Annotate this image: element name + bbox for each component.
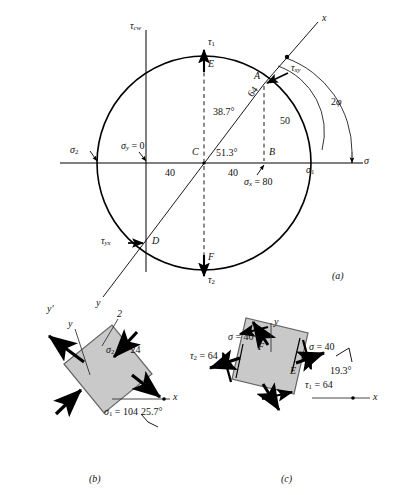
angle-51-3-label-a: 51.3° xyxy=(216,147,238,158)
x-axis-tick-c xyxy=(351,396,355,400)
y-label-c: y xyxy=(274,316,278,327)
tau1-label-a: τ1 xyxy=(208,36,215,47)
x-label-c: x xyxy=(373,391,377,402)
right-segment-label-a: 40 xyxy=(228,167,238,178)
x-axis-tick-b xyxy=(162,397,166,401)
sigma2-arrow-bottom-b xyxy=(56,390,81,414)
two-phi-label-a: 2φ xyxy=(331,96,342,107)
sigma-right-label-c: σ = 40 xyxy=(309,341,335,352)
x-axis-label-a: x xyxy=(322,12,326,23)
point-A-label-a: A xyxy=(254,70,260,81)
sigma-x-leader xyxy=(257,165,264,175)
tau-cw-axis-label: τcw xyxy=(130,20,141,31)
mohr-circle-figure xyxy=(0,0,394,495)
left-segment-label-a: 40 xyxy=(165,167,175,178)
sigma2-label-b: σ2 = −24 xyxy=(106,344,141,355)
angle-label-b: 25.7° xyxy=(141,406,163,417)
sigma-top-label-c: σ = 40 xyxy=(228,331,254,342)
sigma-axis-label: σ xyxy=(364,155,369,166)
angle-38-7-label-a: 38.7° xyxy=(213,106,235,117)
angle-tick-c xyxy=(336,348,352,362)
point-E-label-a: E xyxy=(208,58,214,69)
y-direction-ray xyxy=(103,243,144,297)
angle-label-c: 19.3° xyxy=(330,365,352,376)
caption-c: (c) xyxy=(281,473,292,484)
point-C-label-a: C xyxy=(192,146,199,157)
caption-b: (b) xyxy=(89,473,101,484)
y-prime-label-b: y′ xyxy=(47,303,54,314)
height-50-label-a: 50 xyxy=(280,115,290,126)
point-F-label-c: F xyxy=(258,341,264,352)
point-E-label-c: E xyxy=(290,365,296,376)
stress-block-b xyxy=(64,325,152,413)
tau1-label-c: τ1 = 64 xyxy=(305,379,333,390)
two-phi-inner-arc xyxy=(278,66,324,150)
tau2-label-a: τ2 xyxy=(208,274,215,285)
sigma-x-80-label-a: σx = 80 xyxy=(244,176,273,187)
tau-yx-label-a: τyx xyxy=(101,235,111,246)
sigma-y-leader xyxy=(139,152,146,161)
stress-block-c xyxy=(232,318,308,394)
x-ray-tick xyxy=(285,55,289,59)
point-F-label-a: F xyxy=(208,251,214,262)
tau2-label-c: τ2 = 64 xyxy=(190,350,218,361)
tau-xy-label-a: τxy xyxy=(291,62,301,73)
direction-2-label-b: 2 xyxy=(117,308,122,319)
point-B-label-a: B xyxy=(269,146,275,157)
tau-left-arrow-c xyxy=(223,353,231,382)
point-C-dot xyxy=(202,161,205,164)
x-direction-ray xyxy=(264,22,318,84)
point-D-label-a: D xyxy=(152,235,159,246)
x-label-b: x xyxy=(173,391,177,402)
sigma1-label-a: σ1 xyxy=(306,164,314,175)
sigma2-label-a: σ2 xyxy=(70,144,78,155)
sigma-y-zero-label-a: σy = 0 xyxy=(121,140,145,151)
y-label-b: y xyxy=(68,318,72,329)
caption-a: (a) xyxy=(332,270,344,281)
sigma1-label-b: σ1 = 104 xyxy=(104,406,138,417)
tau-bottom-arrow-c xyxy=(262,392,292,399)
y-axis-label-a: y xyxy=(96,297,100,308)
sigma2-leader xyxy=(90,151,97,161)
